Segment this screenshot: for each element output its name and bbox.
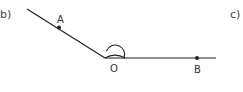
point-a xyxy=(57,26,61,30)
label-b: B xyxy=(194,64,201,75)
part-label-c: c) xyxy=(230,8,240,21)
label-o: O xyxy=(110,63,118,74)
angle-diagram: b) c) A O B xyxy=(0,0,243,92)
point-b xyxy=(195,56,199,60)
label-a: A xyxy=(57,14,64,25)
ray-oa xyxy=(27,9,105,58)
part-label-b: b) xyxy=(0,8,11,21)
